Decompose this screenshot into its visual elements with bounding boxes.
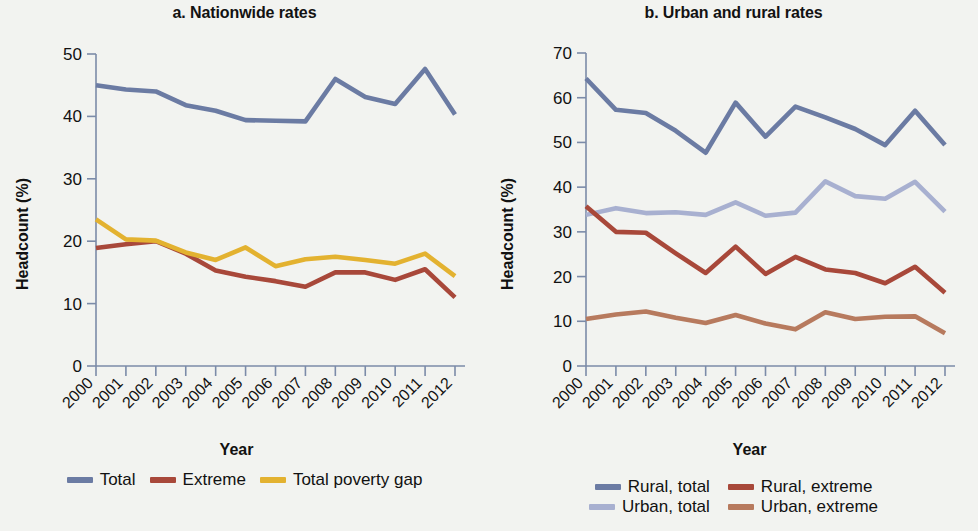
x-tick-label: 2009 <box>328 374 365 411</box>
panel-urban-and-rural-rates: b. Urban and rural rates Headcount (%) 0… <box>489 0 978 531</box>
x-tick-label: 2002 <box>609 374 646 411</box>
legend-swatch-icon-urban-extreme <box>728 504 754 510</box>
x-tick-label: 2011 <box>389 374 425 410</box>
y-tick-label: 20 <box>553 268 572 287</box>
legend-label-extreme: Extreme <box>183 470 246 490</box>
x-tick-label: 2005 <box>699 374 736 411</box>
panel-a-legend-row: Total Extreme Total poverty gap <box>0 470 489 490</box>
y-tick-label: 30 <box>553 223 572 242</box>
x-tick-label: 2007 <box>268 374 305 411</box>
y-tick-label: 40 <box>553 178 572 197</box>
x-tick-label: 2005 <box>209 374 246 411</box>
legend-item-rural-total[interactable]: Rural, total <box>595 477 710 497</box>
legend-item-total[interactable]: Total <box>67 470 136 490</box>
legend-swatch-icon-total <box>67 477 93 483</box>
y-tick-label: 10 <box>553 312 572 331</box>
x-tick-label: 2002 <box>119 374 156 411</box>
x-tick-label: 2009 <box>818 374 855 411</box>
legend-item-rural-extreme[interactable]: Rural, extreme <box>728 477 872 497</box>
legend-item-extreme[interactable]: Extreme <box>150 470 246 490</box>
poverty-rates-figure: a. Nationwide rates Headcount (%) 010203… <box>0 0 978 531</box>
x-tick-label: 2007 <box>758 374 795 411</box>
x-tick-label: 2006 <box>238 374 275 411</box>
series-line-urban-total <box>586 181 945 215</box>
x-tick-label: 2000 <box>59 374 96 411</box>
legend-swatch-icon-urban-total <box>589 504 615 510</box>
legend-item-urban-total[interactable]: Urban, total <box>589 497 710 517</box>
x-tick-label: 2006 <box>728 374 765 411</box>
x-tick-label: 2008 <box>298 374 335 411</box>
panel-a-x-axis-label: Year <box>0 441 481 459</box>
x-tick-label: 2010 <box>848 374 885 411</box>
legend-item-urban-extreme[interactable]: Urban, extreme <box>728 497 878 517</box>
series-line-rural-total <box>586 78 945 152</box>
series-line-extreme <box>96 241 455 297</box>
x-tick-label: 2003 <box>149 374 186 411</box>
panel-a-plot-area: 0102030405020002001200220032004200520062… <box>0 0 489 420</box>
panel-nationwide-rates: a. Nationwide rates Headcount (%) 010203… <box>0 0 489 531</box>
y-tick-label: 40 <box>63 107 82 126</box>
panel-b-legend-row-2: Urban, total Urban, extreme <box>489 497 978 517</box>
legend-swatch-icon-total-poverty-gap <box>260 477 286 483</box>
series-line-rural-extreme <box>586 206 945 292</box>
panel-b-x-axis-label: Year <box>505 441 978 459</box>
legend-item-total-poverty-gap[interactable]: Total poverty gap <box>260 470 422 490</box>
y-tick-label: 0 <box>73 357 82 376</box>
x-tick-label: 2004 <box>179 374 216 411</box>
y-tick-label: 0 <box>563 357 572 376</box>
x-tick-label: 2010 <box>358 374 395 411</box>
y-tick-label: 30 <box>63 170 82 189</box>
panel-b-plot-area: 0102030405060702000200120022003200420052… <box>489 0 978 420</box>
legend-swatch-icon-rural-extreme <box>728 484 754 490</box>
x-tick-label: 2011 <box>879 374 915 410</box>
y-tick-label: 10 <box>63 295 82 314</box>
legend-label-rural-total: Rural, total <box>628 477 710 497</box>
legend-swatch-icon-extreme <box>150 477 176 483</box>
y-tick-label: 70 <box>553 44 572 63</box>
x-tick-label: 2001 <box>89 374 126 411</box>
panel-b-legend: Rural, total Rural, extreme Urban, total… <box>489 477 978 517</box>
panel-b-legend-row-1: Rural, total Rural, extreme <box>489 477 978 497</box>
x-tick-label: 2008 <box>788 374 825 411</box>
y-tick-label: 20 <box>63 232 82 251</box>
legend-label-total-poverty-gap: Total poverty gap <box>293 470 422 490</box>
x-tick-label: 2001 <box>579 374 616 411</box>
legend-label-total: Total <box>100 470 136 490</box>
legend-label-urban-extreme: Urban, extreme <box>761 497 878 517</box>
x-tick-label: 2003 <box>639 374 676 411</box>
y-tick-label: 50 <box>553 133 572 152</box>
x-tick-label: 2000 <box>549 374 586 411</box>
panel-b-svg: 0102030405060702000200120022003200420052… <box>489 0 978 420</box>
x-tick-label: 2012 <box>908 374 945 411</box>
x-tick-label: 2004 <box>669 374 706 411</box>
series-line-urban-extreme <box>586 311 945 333</box>
legend-label-urban-total: Urban, total <box>622 497 710 517</box>
legend-swatch-icon-rural-total <box>595 484 621 490</box>
series-line-total-poverty-gap <box>96 219 455 276</box>
x-tick-label: 2012 <box>418 374 455 411</box>
legend-label-rural-extreme: Rural, extreme <box>761 477 872 497</box>
series-line-total <box>96 69 455 121</box>
panel-a-svg: 0102030405020002001200220032004200520062… <box>0 0 489 420</box>
panel-a-legend: Total Extreme Total poverty gap <box>0 470 489 490</box>
y-tick-label: 60 <box>553 89 572 108</box>
y-tick-label: 50 <box>63 45 82 64</box>
